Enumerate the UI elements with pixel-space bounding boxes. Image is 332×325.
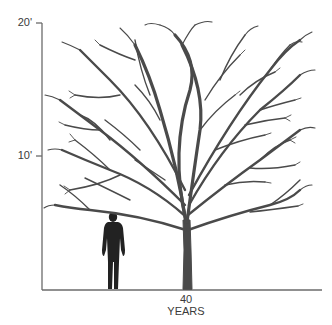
person-silhouette xyxy=(102,212,125,289)
age-unit-label: YEARS xyxy=(156,306,216,317)
tree-illustration xyxy=(44,21,315,289)
y-tick-label-10: 10' xyxy=(2,150,32,161)
tree-size-diagram: 20' 10' 40 YEARS xyxy=(0,0,332,325)
age-value-label: 40 xyxy=(156,294,216,305)
y-tick-label-20: 20' xyxy=(2,17,32,28)
diagram-canvas xyxy=(0,0,332,325)
